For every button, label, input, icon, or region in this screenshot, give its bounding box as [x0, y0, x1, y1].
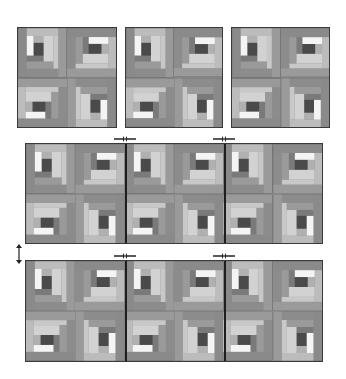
log-cabin-block: [125, 144, 174, 194]
log-cabin-block: [18, 28, 67, 78]
log-cabin-block: [174, 28, 222, 78]
log-cabin-block: [174, 144, 223, 194]
log-cabin-block: [223, 311, 272, 361]
log-cabin-block: [75, 311, 124, 361]
seam-line: [224, 144, 226, 243]
log-cabin-block: [67, 28, 116, 78]
log-cabin-block: [26, 194, 75, 244]
log-cabin-block: [26, 261, 75, 311]
log-cabin-block: [223, 194, 272, 244]
log-cabin-block: [223, 144, 272, 194]
log-cabin-block: [26, 144, 75, 194]
log-cabin-block: [125, 261, 174, 311]
log-cabin-block: [75, 144, 124, 194]
log-cabin-block: [281, 78, 330, 128]
join-arrow-icon: [114, 135, 136, 143]
unit-1-panel: [17, 27, 117, 128]
log-cabin-block: [232, 78, 281, 128]
log-cabin-block: [26, 311, 75, 361]
join-arrow-icon: [114, 252, 136, 260]
log-cabin-block: [223, 261, 272, 311]
log-cabin-block: [75, 194, 124, 244]
log-cabin-block: [281, 28, 330, 78]
seam-line: [224, 261, 226, 361]
log-cabin-block: [126, 78, 174, 128]
seam-line: [125, 261, 127, 361]
log-cabin-block: [232, 28, 281, 78]
log-cabin-block: [125, 311, 174, 361]
strip-middle-panel: [25, 143, 323, 244]
strip-bottom-panel: [25, 260, 323, 362]
unit-2-panel: [125, 27, 223, 128]
log-cabin-block: [174, 78, 222, 128]
log-cabin-block: [125, 194, 174, 244]
log-cabin-block: [273, 261, 322, 311]
log-cabin-block: [174, 261, 223, 311]
log-cabin-block: [174, 194, 223, 244]
log-cabin-block: [126, 28, 174, 78]
log-cabin-block: [273, 311, 322, 361]
unit-3-panel: [231, 27, 330, 128]
log-cabin-block: [174, 311, 223, 361]
log-cabin-block: [18, 78, 67, 128]
log-cabin-block: [273, 144, 322, 194]
log-cabin-block: [75, 261, 124, 311]
join-arrow-icon: [213, 135, 235, 143]
seam-line: [125, 144, 127, 243]
log-cabin-block: [273, 194, 322, 244]
vertical-join-arrow-icon: [15, 244, 23, 264]
join-arrow-icon: [213, 252, 235, 260]
log-cabin-block: [67, 78, 116, 128]
